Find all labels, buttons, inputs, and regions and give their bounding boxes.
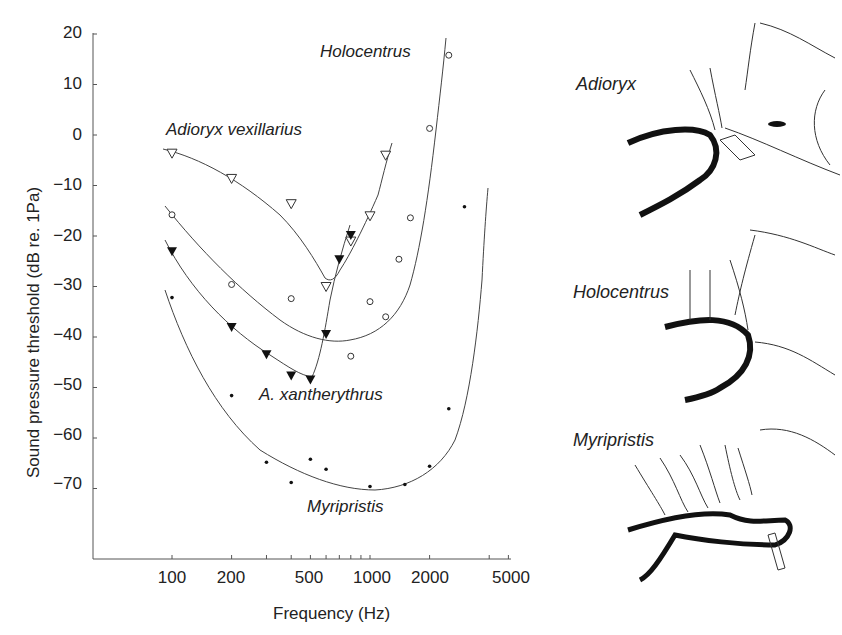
x-axis-title: Frequency (Hz) <box>273 604 390 624</box>
data-point <box>428 464 432 468</box>
threshold-chart <box>0 0 560 635</box>
y-axis-title: Sound pressure threshold (dB re. 1Pa) <box>24 187 44 478</box>
data-point <box>348 353 354 359</box>
data-point <box>170 296 174 300</box>
data-point <box>230 394 234 398</box>
series-label-adioryx: Adioryx vexillarius <box>166 120 302 140</box>
data-point <box>227 174 237 183</box>
data-point <box>463 205 467 209</box>
x-tick-100: 100 <box>142 568 202 588</box>
data-point <box>403 483 407 487</box>
data-point <box>407 215 413 221</box>
data-point <box>446 52 452 58</box>
data-point <box>289 481 293 485</box>
data-point <box>169 212 175 218</box>
x-tick-200: 200 <box>201 568 261 588</box>
data-point <box>167 247 177 256</box>
data-point <box>334 255 344 264</box>
data-point <box>381 151 391 160</box>
x-tick-500: 500 <box>279 568 339 588</box>
series-label-myripristis: Myripristis <box>307 497 384 517</box>
data-point <box>227 323 237 332</box>
data-point <box>286 371 296 380</box>
series-label-holocentrus: Holocentrus <box>320 42 411 62</box>
x-tick-2000: 2000 <box>400 568 460 588</box>
data-point <box>368 485 372 489</box>
data-point <box>265 460 269 464</box>
y-ticks <box>93 34 97 489</box>
series-label-xantherythrus: A. xantherythrus <box>259 385 383 405</box>
y-tick-10: 10 <box>22 74 82 94</box>
x-tick-1000: 1000 <box>342 568 402 588</box>
data-point <box>396 256 402 262</box>
data-point <box>447 407 451 411</box>
fish-label-adioryx: Adioryx <box>576 74 636 95</box>
fish-illustrations <box>560 0 842 635</box>
data-point <box>305 375 315 384</box>
data-point <box>229 281 235 287</box>
data-point <box>288 296 294 302</box>
axes <box>93 33 511 559</box>
y-tick-20: 20 <box>22 23 82 43</box>
data-markers <box>167 52 466 488</box>
fish-label-myripristis: Myripristis <box>573 430 654 451</box>
data-point <box>286 200 296 209</box>
data-point <box>367 299 373 305</box>
data-point <box>383 314 389 320</box>
fish-label-holocentrus: Holocentrus <box>573 282 669 303</box>
data-point <box>309 457 313 461</box>
x-tick-5000: 5000 <box>481 568 541 588</box>
data-point <box>427 125 433 131</box>
data-point <box>321 330 331 339</box>
data-point <box>167 149 177 158</box>
fitted-curves <box>163 38 488 490</box>
x-ticks <box>172 555 508 559</box>
data-point <box>321 283 331 292</box>
data-point <box>324 468 328 472</box>
y-tick-0: 0 <box>22 125 82 145</box>
